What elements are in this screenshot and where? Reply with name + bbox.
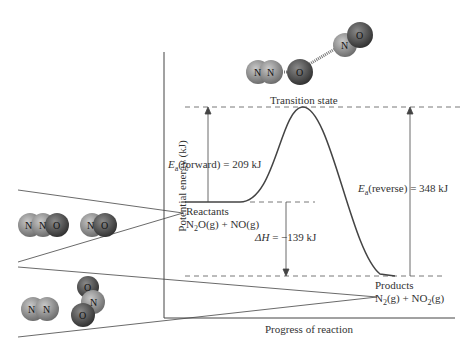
products-formula: N2(g) + NO2(g)	[375, 292, 444, 307]
svg-text:O: O	[84, 282, 91, 293]
svg-text:O: O	[101, 220, 108, 231]
svg-text:N: N	[25, 220, 32, 231]
svg-text:N: N	[254, 67, 261, 78]
svg-text:O: O	[53, 220, 60, 231]
ea-reverse-label: Ea(reverse) = 348 kJ	[358, 182, 448, 197]
svg-text:N: N	[341, 40, 348, 51]
svg-text:O: O	[79, 310, 86, 321]
reactants-formula: N2O(g) + NO(g)	[186, 218, 259, 233]
products-label: Products	[375, 279, 414, 291]
delta-h-label: ΔH = −139 kJ	[255, 231, 316, 243]
svg-text:N: N	[90, 297, 97, 308]
ea-forward-label: Ea(forward) = 209 kJ	[168, 158, 261, 173]
svg-text:O: O	[356, 30, 363, 41]
reactants-label: Reactants	[186, 205, 229, 217]
svg-text:N: N	[39, 220, 46, 231]
x-axis-label: Progress of reaction	[265, 323, 353, 335]
svg-text:O: O	[296, 67, 303, 78]
reactant-molecules: NNO NO	[18, 213, 117, 237]
ts-molecule: NNO NO	[246, 22, 373, 85]
svg-text:N: N	[267, 67, 274, 78]
transition-state-label: Transition state	[270, 94, 338, 106]
product-molecules: NN ONO	[21, 276, 105, 327]
svg-text:N: N	[28, 304, 35, 315]
svg-text:N: N	[43, 304, 50, 315]
svg-text:N: N	[87, 220, 94, 231]
